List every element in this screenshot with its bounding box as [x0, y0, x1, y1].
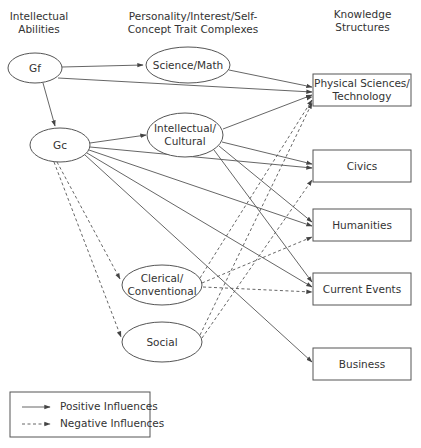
node-physical-sciences: Physical Sciences/ Technology: [313, 74, 411, 106]
node-gf-label: Gf: [29, 62, 41, 75]
edge-gc-humanities: [89, 150, 312, 226]
edge-gc-clerical: [57, 162, 120, 279]
node-gc-label: Gc: [53, 139, 67, 152]
node-social: Social: [122, 322, 202, 362]
node-humanities-label: Humanities: [332, 219, 392, 232]
edge-social-civics: [202, 180, 312, 338]
legend-negative-label: Negative Influences: [60, 417, 164, 429]
node-civics-label: Civics: [347, 160, 378, 173]
edge-gf-sciencemath: [62, 65, 143, 67]
node-physical-sciences-label-1: Physical Sciences/: [314, 77, 410, 90]
edge-gf-gc: [43, 83, 55, 126]
node-current-events: Current Events: [313, 273, 411, 305]
node-business: Business: [313, 348, 411, 380]
edge-gc-social: [54, 162, 121, 337]
node-science-math-label: Science/Math: [153, 59, 224, 72]
node-current-events-label: Current Events: [323, 283, 401, 296]
node-clerical-conventional-label-2: Conventional: [127, 285, 196, 298]
node-physical-sciences-label-2: Technology: [333, 90, 392, 103]
node-gc: Gc: [30, 128, 90, 162]
edge-sciencemath-physsci: [229, 70, 312, 87]
node-clerical-conventional: Clerical/ Conventional: [122, 265, 202, 305]
edge-intcult-currentevents: [214, 150, 312, 282]
node-business-label: Business: [339, 358, 385, 371]
node-gf: Gf: [8, 53, 62, 83]
node-intellectual-cultural-label-2: Cultural: [164, 135, 205, 148]
node-intellectual-cultural: Intellectual/ Cultural: [147, 113, 223, 157]
legend-box: [10, 392, 150, 437]
edge-clerical-currentevents: [203, 287, 312, 292]
node-humanities: Humanities: [313, 209, 411, 241]
node-clerical-conventional-label-1: Clerical/: [141, 272, 184, 285]
node-science-math: Science/Math: [146, 47, 230, 83]
legend: [10, 392, 150, 437]
legend-positive-label: Positive Influences: [60, 400, 158, 412]
node-civics: Civics: [313, 150, 411, 182]
node-intellectual-cultural-label-1: Intellectual/: [154, 122, 216, 135]
node-social-label: Social: [146, 336, 177, 349]
